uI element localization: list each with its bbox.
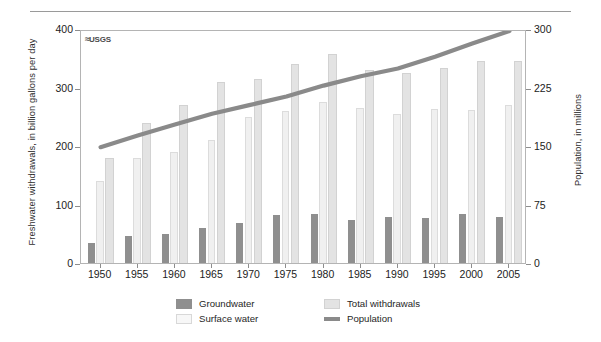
x-tick-label: 2000 (451, 268, 491, 280)
x-tick-label: 1955 (117, 268, 157, 280)
legend-label: Surface water (199, 313, 258, 324)
x-tick-label: 1980 (303, 268, 343, 280)
legend-label: Groundwater (199, 298, 254, 309)
y-tick-label-right: 0 (534, 257, 540, 269)
x-tick-label: 1950 (80, 268, 120, 280)
plot-area: ≈USGS (80, 30, 526, 264)
x-tick-label: 1960 (154, 268, 194, 280)
legend-label: Total withdrawals (347, 298, 420, 309)
legend-item[interactable]: Total withdrawals (324, 296, 420, 311)
x-tick-label: 1965 (191, 268, 231, 280)
legend-item[interactable]: Surface water (176, 311, 258, 326)
y-tick-label-right: 225 (534, 82, 552, 94)
y-axis-right-title: Population, in millions (573, 40, 583, 240)
x-tick-label: 1985 (340, 268, 380, 280)
chart-figure: Freshwater withdrawals, in billion gallo… (0, 0, 601, 342)
population-polyline (101, 31, 510, 147)
y-tick-label-left: 400 (55, 23, 73, 35)
legend-swatch-icon (176, 299, 192, 309)
legend-item[interactable]: Groundwater (176, 296, 258, 311)
y-axis-left-title: Freshwater withdrawals, in billion gallo… (27, 27, 37, 257)
legend-swatch-icon (176, 314, 192, 324)
legend-label: Population (347, 313, 392, 324)
y-tick-label-left: 200 (55, 140, 73, 152)
x-tick-label: 1970 (228, 268, 268, 280)
x-tick-label: 1990 (377, 268, 417, 280)
y-tick-label-left: 100 (55, 199, 73, 211)
legend-swatch-icon (324, 299, 340, 309)
y-tick-label-right: 300 (534, 23, 552, 35)
y-tick-label-left: 300 (55, 82, 73, 94)
population-line (81, 31, 527, 265)
legend-column-left: GroundwaterSurface water (176, 296, 258, 326)
x-tick-label: 1995 (414, 268, 454, 280)
y-tick-label-right: 150 (534, 140, 552, 152)
legend-swatch-icon (324, 317, 340, 321)
y-tick-label-left: 0 (67, 257, 73, 269)
header-divider (30, 11, 571, 12)
legend-column-right: Total withdrawalsPopulation (324, 296, 420, 326)
x-tick-label: 1975 (265, 268, 305, 280)
y-tick-left (75, 264, 80, 265)
legend-item[interactable]: Population (324, 311, 420, 326)
x-tick-label: 2005 (488, 268, 528, 280)
y-tick-label-right: 75 (534, 199, 546, 211)
